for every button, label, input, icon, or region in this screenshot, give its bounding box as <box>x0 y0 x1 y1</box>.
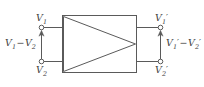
output-v1p-prime: ′ <box>166 13 168 23</box>
amplifier-triangle-icon <box>64 17 136 72</box>
output-diff-subtrahend-prime: ′ <box>199 38 201 48</box>
output-diff-subtrahend-base: V <box>188 37 195 48</box>
input-v2-base: V <box>36 64 43 75</box>
output-v2p-base: V <box>155 64 162 75</box>
amplifier-block-rectangle <box>63 16 137 73</box>
circuit-diagram: V1 V2 V1−V2 V1′ V2′ V1′−V2′ <box>0 0 204 87</box>
output-diff-operator: − <box>179 37 188 48</box>
input-terminal-bottom-label: V2 <box>36 65 47 77</box>
output-v1p-base: V <box>155 12 162 23</box>
output-v2p-prime: ′ <box>166 65 168 75</box>
input-terminal-top-label: V1 <box>36 13 47 25</box>
input-diff-subtrahend-base: V <box>25 37 32 48</box>
input-diff-minuend-base: V <box>5 37 12 48</box>
output-terminal-bottom-label: V2′ <box>155 65 168 77</box>
input-diff-operator: − <box>16 37 25 48</box>
output-differential-voltage-label: V1′−V2′ <box>166 38 201 50</box>
input-differential-voltage-label: V1−V2 <box>5 38 36 50</box>
output-terminal-top-label: V1′ <box>155 13 168 25</box>
input-v1-subscript: 1 <box>43 18 47 26</box>
input-diff-subtrahend-subscript: 2 <box>32 43 36 51</box>
output-diff-minuend-base: V <box>166 37 173 48</box>
input-v2-subscript: 2 <box>43 70 47 78</box>
input-v1-base: V <box>36 12 43 23</box>
